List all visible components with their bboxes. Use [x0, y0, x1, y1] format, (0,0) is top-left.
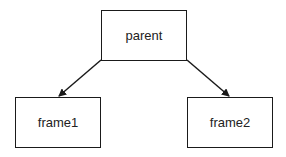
- node-label: frame2: [210, 115, 250, 130]
- node-frame2: frame2: [187, 97, 273, 148]
- node-parent: parent: [101, 10, 187, 61]
- node-label: frame1: [38, 115, 78, 130]
- node-label: parent: [126, 28, 163, 43]
- node-frame1: frame1: [15, 97, 101, 148]
- edge-parent-frame2: [187, 60, 229, 96]
- edge-parent-frame1: [59, 60, 101, 96]
